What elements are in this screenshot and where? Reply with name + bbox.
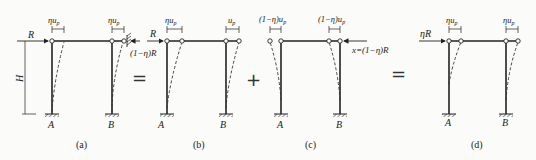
hinge-icon	[180, 39, 184, 43]
dimension-mark	[449, 26, 518, 33]
panel-caption: (d)	[471, 139, 483, 151]
hinge-icon	[459, 39, 463, 43]
hinge-icon	[50, 39, 54, 43]
panel-caption: (b)	[193, 139, 205, 151]
hinge-icon	[237, 39, 241, 43]
column-label-a: A	[157, 119, 165, 130]
restraint-icon	[127, 33, 131, 47]
deflection-b	[112, 42, 123, 112]
column-label-b: B	[108, 119, 114, 130]
hinge-icon	[338, 39, 342, 43]
hinge-icon	[327, 39, 331, 43]
plus-operator: +	[246, 69, 261, 90]
column-label-b: B	[220, 119, 226, 130]
dimension-mark	[270, 26, 340, 33]
displacement-label: ηup	[503, 15, 514, 26]
panel-caption: (c)	[305, 139, 316, 151]
force-label: x=(1−η)R	[351, 45, 389, 55]
displacement-label: up	[228, 15, 235, 26]
dimension-mark	[52, 26, 124, 33]
column-label-a: A	[47, 119, 55, 130]
hinge-icon	[516, 39, 520, 43]
displacement-label: (1−η)up	[318, 14, 345, 25]
column-label-b: B	[336, 119, 342, 130]
column-label-a: A	[276, 119, 284, 130]
frame-superposition-diagram: R (1−η)R ηup ηup H A B (a) =	[0, 0, 536, 160]
displacement-label: ηup	[165, 15, 176, 26]
panel-c: x=(1−η)R (1−η)up (1−η)up A B (c)	[259, 14, 389, 151]
reaction-label: (1−η)R	[130, 48, 157, 58]
column-label-b: B	[502, 117, 508, 128]
deflection-a	[52, 42, 64, 112]
hinge-icon	[447, 39, 451, 43]
dimension-mark	[167, 26, 239, 33]
hinge-icon	[268, 39, 272, 43]
panel-caption: (a)	[76, 139, 87, 151]
force-label: R	[27, 29, 34, 40]
panel-b: R ηup up A B (b)	[147, 15, 241, 151]
hinge-icon	[504, 39, 508, 43]
force-label: ηR	[420, 28, 431, 39]
displacement-label: ηup	[446, 15, 457, 26]
equals-operator: =	[132, 67, 147, 88]
displacement-label: ηup	[108, 15, 119, 26]
hinge-icon	[279, 39, 283, 43]
height-label: H	[14, 74, 25, 83]
hinge-icon	[122, 39, 126, 43]
hinge-icon	[165, 39, 169, 43]
displacement-label: (1−η)up	[259, 14, 286, 25]
equals-operator: =	[391, 63, 406, 84]
force-label: R	[149, 28, 156, 39]
panel-d: ηR ηup ηup A B (d)	[419, 15, 520, 151]
hinge-icon	[224, 39, 228, 43]
displacement-label: ηup	[48, 15, 59, 26]
column-label-a: A	[444, 117, 452, 128]
hinge-icon	[110, 39, 114, 43]
